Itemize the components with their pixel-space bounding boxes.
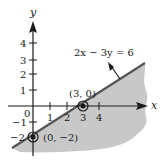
y-tick-label: 2: [20, 69, 26, 80]
y-tick-label: −2: [10, 132, 25, 143]
point-0-neg2-label: (0, −2): [43, 132, 78, 143]
y-tick-label: 1: [20, 85, 26, 96]
y-tick-label: 4: [20, 38, 26, 49]
x-tick-label: 2: [64, 112, 70, 123]
point-3-0-label: (3, 0): [69, 88, 96, 99]
equation-label: 2x − 3y = 6: [74, 47, 134, 58]
y-axis-label: y: [29, 6, 37, 19]
y-tick-label: 3: [20, 55, 26, 66]
x-tick-label: 3: [80, 112, 86, 123]
x-tick-label: 1: [47, 112, 53, 123]
x-axis-label: x: [151, 99, 158, 112]
inequality-graph: y x 4 3 2 1 0 −1 −2 1 2 3 4 (3, 0) (0, −…: [0, 0, 165, 164]
x-tick-label: 4: [96, 112, 102, 123]
y-tick-label: −1: [12, 117, 27, 128]
